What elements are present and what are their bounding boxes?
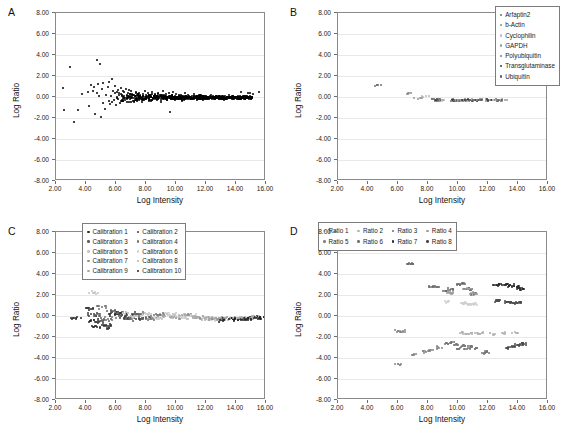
- data-point: [166, 98, 168, 100]
- legend-item[interactable]: Cyclophilin: [500, 31, 555, 41]
- data-point: [94, 314, 96, 316]
- data-point: [108, 327, 110, 329]
- x-tick-mark: [487, 400, 488, 403]
- data-point: [117, 89, 119, 91]
- x-tick-label: 2.00: [331, 185, 344, 192]
- data-point: [92, 292, 94, 294]
- data-point: [172, 91, 174, 93]
- y-tick-mark: [52, 96, 55, 97]
- data-point: [447, 301, 449, 303]
- legend-item[interactable]: Calibration 3: [87, 237, 128, 247]
- legend-item[interactable]: GAPDH: [500, 41, 555, 51]
- legend-item[interactable]: b-Actin: [500, 20, 555, 30]
- legend-item[interactable]: Ubiquitin: [500, 72, 555, 82]
- legend-label: Calibration 6: [142, 247, 177, 257]
- data-point: [105, 307, 107, 309]
- legend-item[interactable]: Ratio 8: [426, 237, 451, 247]
- legend-item[interactable]: Calibration 7: [87, 256, 128, 266]
- data-point: [92, 308, 94, 310]
- legend-item[interactable]: Ratio 3: [392, 226, 417, 236]
- y-axis-label: Log Ratio: [294, 302, 303, 337]
- legend-swatch-icon: [137, 250, 140, 253]
- legend-item[interactable]: Calibration 4: [137, 237, 181, 247]
- legend-item[interactable]: Arfaptin2: [500, 10, 555, 20]
- gridline: [338, 253, 546, 254]
- x-tick-label: 8.00: [139, 404, 152, 411]
- y-tick-mark: [334, 231, 337, 232]
- legend-item[interactable]: Calibration 8: [137, 256, 181, 266]
- data-point: [108, 81, 110, 83]
- legend-swatch-icon: [392, 230, 395, 233]
- gridline: [56, 139, 264, 140]
- legend-item[interactable]: Calibration 9: [87, 266, 128, 276]
- data-point: [516, 286, 518, 288]
- y-tick-mark: [334, 117, 337, 118]
- data-point: [160, 101, 162, 103]
- legend-item[interactable]: Ratio 7: [392, 237, 417, 247]
- data-point: [108, 100, 110, 102]
- legend-item[interactable]: Ratio 6: [357, 237, 382, 247]
- y-tick-label: 4.00: [285, 51, 331, 58]
- y-tick-mark: [52, 138, 55, 139]
- data-point: [114, 92, 116, 94]
- legend-item[interactable]: Polyubiquitin: [500, 51, 555, 61]
- legend-label: Calibration 9: [93, 266, 128, 276]
- data-point: [488, 352, 490, 354]
- legend-item[interactable]: Ratio 4: [426, 226, 451, 236]
- y-tick-label: 0.00: [285, 312, 331, 319]
- data-point: [428, 285, 430, 287]
- data-point: [506, 99, 508, 101]
- data-point: [429, 350, 431, 352]
- gridline: [56, 34, 264, 35]
- y-tick-mark: [334, 315, 337, 316]
- gridline: [56, 295, 264, 296]
- data-point: [168, 312, 170, 314]
- data-point: [145, 98, 147, 100]
- legend-swatch-icon: [87, 240, 90, 243]
- legend-item[interactable]: Ratio 5: [323, 237, 348, 247]
- data-point: [123, 317, 125, 319]
- legend-item[interactable]: Calibration 10: [137, 266, 181, 276]
- data-point: [136, 99, 138, 101]
- y-tick-label: 8.00: [3, 9, 49, 16]
- y-tick-mark: [52, 75, 55, 76]
- data-point: [117, 98, 119, 100]
- data-point: [77, 109, 79, 111]
- y-tick-label: -2.00: [3, 333, 49, 340]
- legend-label: b-Actin: [505, 20, 525, 30]
- legend-item[interactable]: Ratio 2: [357, 226, 382, 236]
- data-point: [111, 311, 113, 313]
- legend-swatch-icon: [323, 240, 326, 243]
- data-point: [138, 318, 140, 320]
- data-point: [192, 97, 194, 99]
- data-point: [152, 97, 154, 99]
- legend-swatch-icon: [500, 34, 503, 37]
- x-tick-mark: [55, 400, 56, 403]
- y-tick-mark: [52, 357, 55, 358]
- data-point: [88, 292, 90, 294]
- panel-d: D Ratio 1Ratio 2Ratio 3Ratio 4Ratio 5Rat…: [282, 219, 564, 439]
- data-point: [111, 78, 113, 80]
- legend-item[interactable]: Calibration 1: [87, 227, 128, 237]
- legend-columns: Calibration 1Calibration 3Calibration 5C…: [87, 227, 181, 276]
- data-point: [98, 308, 100, 310]
- data-point: [243, 98, 245, 100]
- data-point: [109, 103, 111, 105]
- legend-item[interactable]: Calibration 5: [87, 247, 128, 257]
- x-tick-mark: [427, 400, 428, 403]
- legend-item[interactable]: Calibration 2: [137, 227, 181, 237]
- data-point: [252, 93, 254, 95]
- legend-item[interactable]: Transglutaminase: [500, 61, 555, 71]
- y-tick-label: -8.00: [3, 177, 49, 184]
- data-point: [190, 314, 192, 316]
- data-point: [92, 90, 94, 92]
- data-point: [249, 92, 251, 94]
- y-tick-label: -2.00: [285, 114, 331, 121]
- legend-item[interactable]: Calibration 6: [137, 247, 181, 257]
- y-tick-mark: [334, 357, 337, 358]
- legend-label: Ratio 1: [329, 226, 349, 236]
- data-point: [410, 263, 412, 265]
- data-point: [151, 317, 153, 319]
- data-point: [412, 263, 414, 265]
- data-point: [93, 86, 95, 88]
